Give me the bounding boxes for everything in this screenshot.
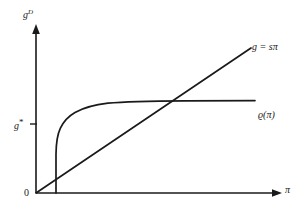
y-axis-arrowhead [32,24,40,34]
origin-label: 0 [24,188,29,198]
x-axis-arrowhead [272,189,282,197]
y-axis-label-superscript: D [28,8,33,16]
y-tick-label-star: * [19,117,24,127]
figure-container: gD π g* 0 g = sπ ϱ(π) [0,0,297,212]
x-axis-label: π [285,185,290,195]
plot-area [0,0,297,212]
series-curve-rho-pi [56,101,255,193]
y-axis [32,24,40,193]
y-tick-label-g-star: g* [14,118,24,131]
y-axis-label: gD [23,9,33,20]
series-line-g-equals-s-pi [36,48,251,193]
x-axis [36,189,282,197]
series-label-g-equals-s-pi: g = sπ [252,42,278,52]
series-label-rho-pi: ϱ(π) [258,110,275,120]
